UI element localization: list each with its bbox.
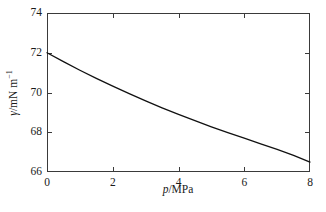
y-tick-label: 70 (31, 87, 43, 99)
x-axis-title-units: /MPa (168, 183, 193, 195)
x-tick-label: 2 (110, 177, 116, 189)
y-axis-title-symbol: γ (7, 111, 19, 116)
x-tick-label: 6 (241, 177, 247, 189)
y-tick-label: 74 (31, 7, 43, 19)
chart-figure: 02468 6668707274 p/MPa γ/mN m−1 (0, 0, 326, 212)
y-tick-label: 66 (31, 166, 43, 178)
y-axis-title-units: /mN m (7, 79, 19, 111)
y-axis-title-exponent: −1 (5, 70, 14, 79)
y-axis-title: γ/mN m−1 (8, 70, 20, 115)
y-tick-label: 72 (31, 47, 43, 59)
x-tick-label: 8 (307, 177, 313, 189)
x-tick-label: 0 (44, 177, 50, 189)
x-axis-title: p/MPa (163, 184, 194, 196)
y-tick-label: 68 (31, 127, 43, 139)
